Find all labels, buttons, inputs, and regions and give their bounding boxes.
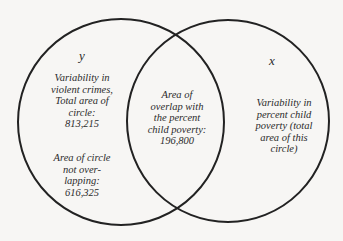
y-variable-label: y — [72, 50, 92, 62]
overlap-description: Area of overlap with the percent child p… — [135, 89, 219, 147]
overlap-value: 196,800 — [135, 135, 219, 147]
text-line: violent crimes, — [40, 84, 124, 96]
x-circle-description: Variability in percent child poverty (to… — [243, 97, 325, 155]
text-line: Total area of — [40, 95, 124, 107]
text-line: lapping: — [40, 175, 124, 187]
y-nonoverlap-description: Area of circle not over- lapping: 616,32… — [40, 152, 124, 198]
text-line: Variability in — [40, 72, 124, 84]
text-line: child poverty: — [135, 124, 219, 136]
y-nonoverlap-value: 616,325 — [40, 187, 124, 199]
text-line: Variability in — [243, 97, 325, 109]
text-line: area of this — [243, 132, 325, 144]
y-circle-description: Variability in violent crimes, Total are… — [40, 72, 124, 130]
text-line: Area of — [135, 89, 219, 101]
x-variable-label: x — [262, 55, 282, 67]
y-total-value: 813,215 — [40, 118, 124, 130]
text-line: circle) — [243, 143, 325, 155]
text-line: circle: — [40, 107, 124, 119]
text-line: percent child — [243, 109, 325, 121]
text-line: Area of circle — [40, 152, 124, 164]
text-line: overlap with — [135, 101, 219, 113]
text-line: poverty (total — [243, 120, 325, 132]
text-line: the percent — [135, 112, 219, 124]
text-line: not over- — [40, 164, 124, 176]
